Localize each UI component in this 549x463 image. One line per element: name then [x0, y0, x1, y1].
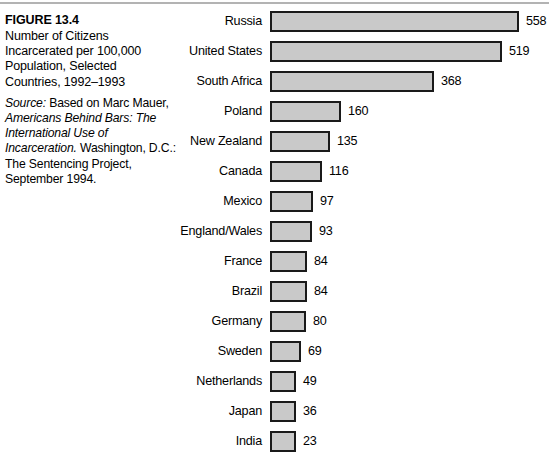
- bar-value-label: 49: [303, 371, 317, 392]
- bar: [270, 131, 330, 152]
- bar-value-label: 160: [348, 101, 368, 122]
- chart-row: France84: [180, 251, 549, 281]
- bar-value-label: 93: [319, 221, 333, 242]
- incarceration-bar-chart: Russia558United States519South Africa368…: [180, 11, 549, 461]
- bar-value-label: 69: [308, 341, 322, 362]
- bar: [270, 221, 312, 242]
- bar-category-label: Mexico: [180, 191, 262, 212]
- chart-row: South Africa368: [180, 71, 549, 101]
- chart-row: Germany80: [180, 311, 549, 341]
- figure-title-line-1: Number of Citizens: [5, 29, 177, 44]
- bar-value-label: 80: [313, 311, 327, 332]
- bar-category-label: Canada: [180, 161, 262, 182]
- bar: [270, 401, 296, 422]
- bar-value-label: 36: [303, 401, 317, 422]
- bar-category-label: Sweden: [180, 341, 262, 362]
- figure-number: FIGURE 13.4: [5, 13, 177, 28]
- bar: [270, 41, 502, 62]
- source-work-title-line-1: Americans Behind Bars: The: [5, 111, 177, 126]
- figure-caption: FIGURE 13.4 Number of Citizens Incarcera…: [5, 13, 177, 187]
- source-attribution: Based on Marc Mauer,: [46, 96, 169, 110]
- chart-row: Mexico97: [180, 191, 549, 221]
- bar: [270, 251, 307, 272]
- bar: [270, 191, 313, 212]
- bar: [270, 431, 296, 452]
- bar-category-label: England/Wales: [180, 221, 262, 242]
- bar-value-label: 97: [320, 191, 334, 212]
- bar-category-label: New Zealand: [180, 131, 262, 152]
- source-line-5: September 1994.: [5, 172, 177, 187]
- bar: [270, 281, 307, 302]
- bar: [270, 11, 519, 32]
- top-divider-rule: [0, 2, 549, 4]
- bar-value-label: 135: [337, 131, 357, 152]
- bar-value-label: 84: [314, 281, 328, 302]
- chart-row: Brazil84: [180, 281, 549, 311]
- figure-title-line-3: Population, Selected: [5, 59, 177, 74]
- chart-row: New Zealand135: [180, 131, 549, 161]
- bar-category-label: South Africa: [180, 71, 262, 92]
- bar-category-label: Netherlands: [180, 371, 262, 392]
- source-line-4: The Sentencing Project,: [5, 157, 177, 172]
- bar: [270, 101, 341, 122]
- chart-row: United States519: [180, 41, 549, 71]
- source-label: Source:: [5, 96, 46, 110]
- chart-row: Japan36: [180, 401, 549, 431]
- chart-row: Canada116: [180, 161, 549, 191]
- bar: [270, 161, 322, 182]
- bar: [270, 371, 296, 392]
- bar: [270, 341, 301, 362]
- bar-category-label: Japan: [180, 401, 262, 422]
- source-line-1: Source: Based on Marc Mauer,: [5, 96, 177, 111]
- bar-value-label: 23: [303, 431, 317, 452]
- bar: [270, 71, 434, 92]
- chart-row: England/Wales93: [180, 221, 549, 251]
- bar-category-label: Russia: [180, 11, 262, 32]
- bar-value-label: 368: [441, 71, 461, 92]
- bar-category-label: Brazil: [180, 281, 262, 302]
- figure-title-line-2: Incarcerated per 100,000: [5, 44, 177, 59]
- chart-row: Russia558: [180, 11, 549, 41]
- chart-row: Sweden69: [180, 341, 549, 371]
- bar-category-label: Germany: [180, 311, 262, 332]
- bar-value-label: 84: [314, 251, 328, 272]
- source-work-title-line-3: Incarceration.: [5, 141, 77, 155]
- source-publisher-city: Washington, D.C.:: [77, 141, 176, 155]
- figure-title-line-4: Countries, 1992–1993: [5, 75, 177, 90]
- source-work-title-line-2: International Use of: [5, 126, 177, 141]
- chart-row: Netherlands49: [180, 371, 549, 401]
- chart-row: Poland160: [180, 101, 549, 131]
- figure-source-note: Source: Based on Marc Mauer, Americans B…: [5, 96, 177, 187]
- bar-value-label: 558: [526, 11, 546, 32]
- bar-category-label: France: [180, 251, 262, 272]
- bar: [270, 311, 306, 332]
- bar-value-label: 116: [329, 161, 348, 182]
- bar-category-label: Poland: [180, 101, 262, 122]
- bar-value-label: 519: [509, 41, 529, 62]
- source-line-3: Incarceration. Washington, D.C.:: [5, 141, 177, 156]
- bar-category-label: United States: [180, 41, 262, 62]
- chart-row: India23: [180, 431, 549, 461]
- bar-category-label: India: [180, 431, 262, 452]
